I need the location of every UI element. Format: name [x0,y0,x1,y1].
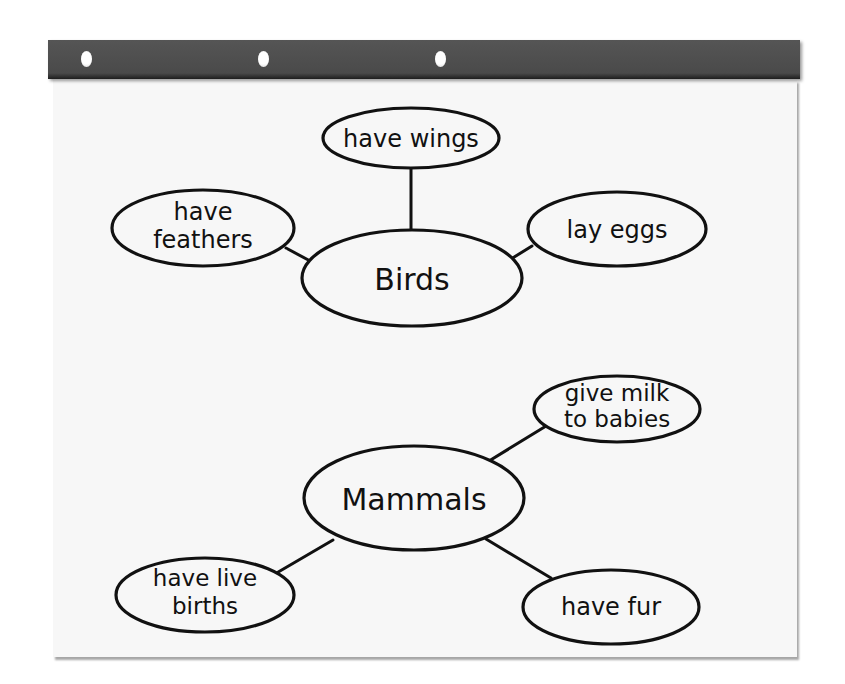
concept-web-diagram: have wings have feathers lay eggs Birds … [0,0,845,684]
node-label-line-1: give milk [565,380,670,406]
node-have-fur: have fur [523,570,699,644]
center-label: Birds [374,262,449,297]
center-label: Mammals [341,482,486,517]
concept-web-page: have wings have feathers lay eggs Birds … [0,0,845,684]
node-have-feathers: have feathers [112,190,294,266]
node-label: have wings [343,125,479,153]
node-label-line-1: have [174,198,233,226]
nodes: have wings have feathers lay eggs Birds … [112,108,706,644]
connector-eggs-birds [511,246,532,259]
node-label-line-1: have live [153,565,257,591]
node-have-live-births: have live births [116,558,294,632]
node-give-milk: give milk to babies [534,376,700,442]
node-lay-eggs: lay eggs [528,192,706,266]
connector-fur-mammals [486,539,551,578]
connector-milk-mammals [489,423,551,461]
node-label-line-2: to babies [564,406,670,432]
node-mammals-center: Mammals [304,446,524,550]
node-label-line-2: feathers [153,226,253,254]
node-label: lay eggs [567,216,668,244]
node-have-wings: have wings [323,108,499,168]
node-label-line-2: births [172,593,238,619]
node-label: have fur [561,593,661,621]
node-birds-center: Birds [302,230,522,326]
